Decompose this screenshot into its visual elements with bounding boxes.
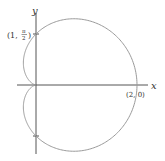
point-label-1-pi-over-2: (1, π 2 )	[7, 28, 31, 41]
svg-text:2: 2	[22, 35, 26, 41]
svg-text:): )	[28, 31, 31, 40]
svg-text:(1,: (1,	[7, 31, 18, 40]
x-axis-label: x	[151, 80, 157, 91]
svg-text:π: π	[22, 28, 26, 34]
cardioid-diagram: x y (2, 0) (1, π 2 )	[0, 0, 165, 161]
y-axis-label: y	[31, 5, 38, 16]
point-label-2-0: (2, 0)	[126, 91, 145, 99]
